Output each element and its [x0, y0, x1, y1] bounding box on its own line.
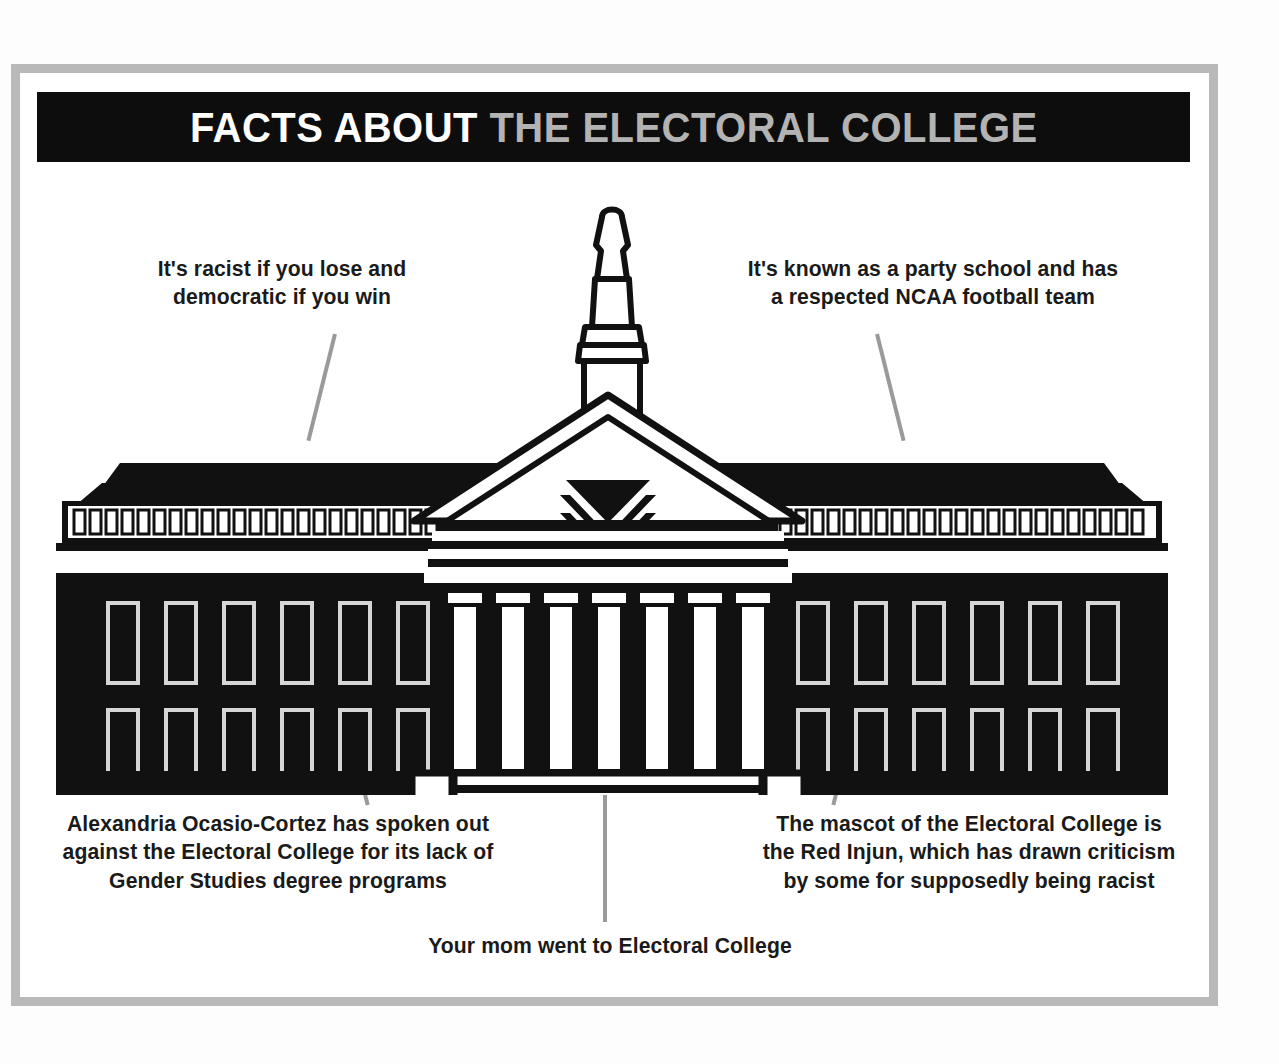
callout-bottom-right: The mascot of the Electoral College is t…: [758, 810, 1179, 895]
callout-bottom-left: Alexandria Ocasio-Cortez has spoken out …: [58, 810, 498, 895]
portico-entablature: [424, 521, 792, 591]
portico-steps: [412, 773, 804, 795]
college-building-illustration: [42, 205, 1182, 795]
pedestal-right: [764, 773, 804, 795]
right-wing-wall: [752, 581, 1168, 771]
leader-line-bottom-center: [603, 790, 607, 922]
right-wing-wall-lower: [752, 771, 1168, 795]
title-part-normal: THE ELECTORAL COLLEGE: [489, 103, 1037, 151]
callout-bottom-center: Your mom went to Electoral College: [413, 932, 808, 960]
title-part-highlight: FACTS ABOUT: [190, 103, 490, 151]
cornice-right: [752, 501, 1168, 581]
left-wing-wall: [56, 581, 472, 771]
cornice-left: [56, 501, 472, 581]
poster-title-bar: FACTS ABOUT THE ELECTORAL COLLEGE: [37, 92, 1190, 162]
poster-title: FACTS ABOUT THE ELECTORAL COLLEGE: [190, 106, 1038, 149]
poster-canvas: FACTS ABOUT THE ELECTORAL COLLEGE It's r…: [0, 0, 1279, 1064]
pedestal-left: [412, 773, 452, 795]
